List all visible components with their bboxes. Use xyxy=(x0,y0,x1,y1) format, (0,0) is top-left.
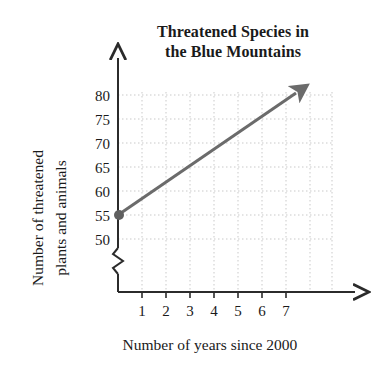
y-tick-label-55: 55 xyxy=(95,208,110,224)
y-tick-labels: 80 75 70 65 60 55 50 xyxy=(95,88,110,248)
x-tick-label-3: 3 xyxy=(186,303,194,319)
x-tick-label-1: 1 xyxy=(138,303,146,319)
x-tick-label-7: 7 xyxy=(282,303,290,319)
x-tick-label-5: 5 xyxy=(234,303,242,319)
x-tick-label-4: 4 xyxy=(210,303,218,319)
x-tick-labels: 1 2 3 4 5 6 7 xyxy=(138,303,290,319)
y-tick-label-60: 60 xyxy=(95,184,110,200)
data-series-line xyxy=(118,93,296,215)
grid-horizontal xyxy=(118,95,332,239)
x-tick-label-6: 6 xyxy=(258,303,266,319)
x-tick-label-2: 2 xyxy=(162,303,170,319)
y-tick-label-65: 65 xyxy=(95,160,110,176)
x-axis-title: Number of years since 2000 xyxy=(60,336,360,354)
plot-area: 80 75 70 65 60 55 50 1 2 3 4 5 6 7 xyxy=(0,0,380,369)
y-axis-break-zigzag xyxy=(113,248,123,274)
data-point-marker-start xyxy=(114,210,124,220)
chart-page: Threatened Species in the Blue Mountains… xyxy=(0,0,380,369)
y-tick-label-75: 75 xyxy=(95,112,110,128)
y-tick-label-50: 50 xyxy=(95,232,110,248)
grid-vertical xyxy=(142,92,332,292)
y-tick-label-70: 70 xyxy=(95,136,110,152)
y-tick-label-80: 80 xyxy=(95,88,110,104)
